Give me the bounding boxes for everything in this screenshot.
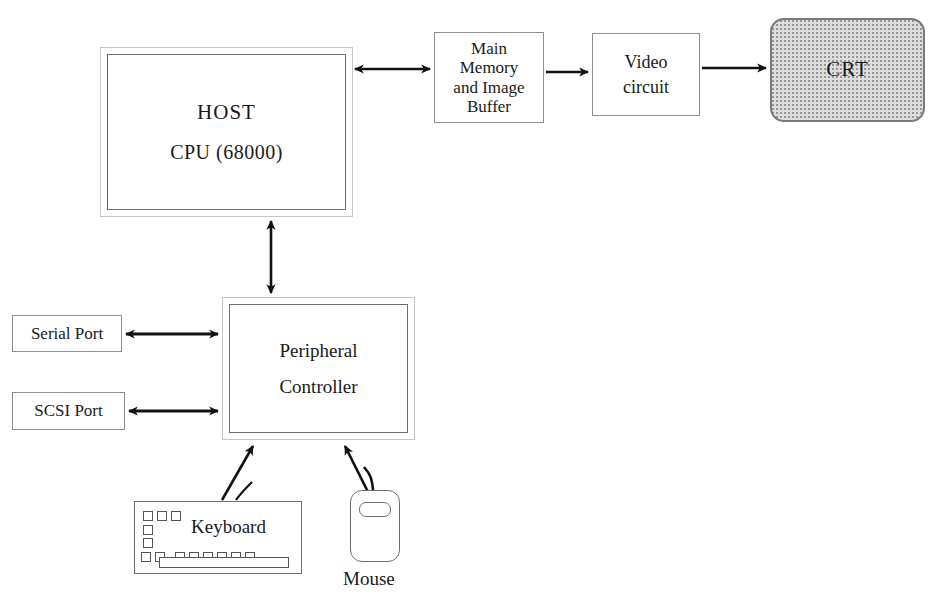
node-keyboard[interactable]: Keyboard [134,501,302,574]
mouse-button [359,502,391,517]
video-circuit-line-1: Video [625,52,668,72]
crt-label: CRT [826,58,869,82]
main-memory-line-4: Buffer [467,97,511,116]
node-crt[interactable]: CRT [770,18,925,122]
keyboard-cable [236,482,252,500]
host-title: HOST [197,101,256,125]
keyboard-key [171,511,181,521]
peripheral-controller-line-2: Controller [279,376,357,397]
node-peripheral-controller[interactable]: Peripheral Controller [222,297,415,440]
node-serial-port[interactable]: Serial Port [12,315,122,352]
diagram-canvas: HOST CPU (68000) Main Memory and Image B… [0,0,940,613]
keyboard-spacebar [159,557,289,568]
scsi-port-label: SCSI Port [34,401,103,420]
main-memory-line-1: Main [471,39,507,58]
node-mouse[interactable] [350,490,400,562]
node-host[interactable]: HOST CPU (68000) [100,47,353,217]
keyboard-key [143,538,153,548]
keyboard-key [141,552,151,562]
connector-keyboard-peripheral-controller [222,446,253,500]
node-video-circuit[interactable]: Video circuit [592,33,700,116]
main-memory-line-2: Memory [460,58,519,77]
serial-port-label: Serial Port [31,324,103,343]
connector-mouse-peripheral-controller [345,446,368,492]
keyboard-label: Keyboard [191,516,266,538]
main-memory-line-3: and Image [453,78,524,97]
keyboard-key [143,525,153,535]
mouse-label: Mouse [343,568,395,590]
mouse-cable [364,467,373,490]
keyboard-key [157,511,167,521]
node-scsi-port[interactable]: SCSI Port [12,392,125,430]
host-subtitle: CPU (68000) [170,141,283,163]
video-circuit-line-2: circuit [623,77,669,97]
peripheral-controller-line-1: Peripheral [279,340,357,361]
keyboard-key [143,511,153,521]
node-main-memory[interactable]: Main Memory and Image Buffer [434,32,544,123]
